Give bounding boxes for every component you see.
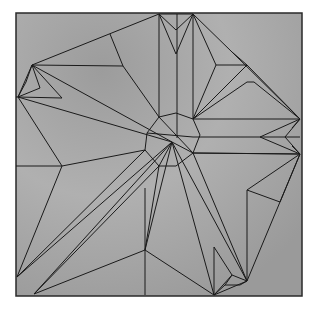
crease-pattern-diagram: [0, 0, 315, 315]
crease-pattern-svg: [0, 0, 315, 315]
